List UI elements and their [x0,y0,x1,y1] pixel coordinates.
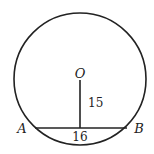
point-b-label: B [133,121,144,136]
center-label: O [75,66,86,81]
point-a-label: A [16,121,26,136]
chord-length-label: 16 [72,130,87,144]
circle-diagram: O 15 16 A B [0,0,154,154]
distance-label: 15 [88,96,103,110]
